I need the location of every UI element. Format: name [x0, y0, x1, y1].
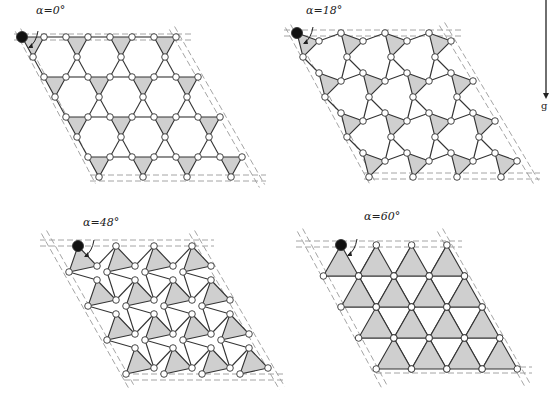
vertex — [151, 74, 158, 81]
vertex — [107, 114, 114, 121]
triangle-unit — [447, 276, 482, 307]
vertex — [432, 54, 439, 61]
triangle-unit — [385, 33, 407, 57]
vertex — [30, 54, 37, 61]
vertex — [162, 134, 169, 141]
triangle-unit — [164, 348, 192, 374]
vertex — [355, 335, 362, 342]
vertex — [360, 38, 367, 45]
vertex — [426, 335, 433, 342]
panel-label-alpha-18: α=18° — [306, 4, 342, 17]
vertex — [382, 110, 389, 117]
vertex — [85, 74, 92, 81]
vertex — [199, 303, 206, 310]
vertex — [444, 304, 451, 311]
vertex — [498, 174, 505, 181]
triangle-unit — [385, 113, 407, 137]
vertex — [373, 366, 380, 373]
vertex — [85, 303, 92, 310]
lattice-panels — [14, 22, 540, 389]
triangle-unit — [202, 348, 230, 374]
rotation-arrow-icon — [85, 240, 94, 256]
vertex — [479, 304, 486, 311]
triangle-unit — [145, 246, 173, 272]
vertex — [170, 277, 177, 284]
vertex — [470, 78, 477, 85]
vertex — [94, 277, 101, 284]
vertex — [96, 174, 103, 181]
vertex — [320, 273, 327, 280]
vertex — [461, 273, 468, 280]
vertex — [66, 269, 73, 276]
vertex — [408, 366, 415, 373]
triangle-unit — [429, 33, 451, 57]
triangle-unit — [473, 113, 495, 137]
lattice-panel-alpha-18 — [284, 22, 540, 183]
triangle-unit — [69, 246, 97, 272]
vertex — [180, 269, 187, 276]
vertex — [208, 345, 215, 352]
vertex — [344, 54, 351, 61]
vertex — [382, 158, 389, 165]
panel-label-alpha-0: α=0° — [36, 4, 65, 17]
lattice-panel-alpha-60 — [296, 229, 532, 388]
panel-label-alpha-60: α=60° — [364, 210, 400, 223]
vertex — [448, 150, 455, 157]
vertex — [404, 70, 411, 77]
vertex — [208, 277, 215, 284]
vertex — [206, 134, 213, 141]
vertex — [161, 371, 168, 378]
vertex — [195, 114, 202, 121]
vertex — [104, 337, 111, 344]
triangle-unit — [465, 307, 500, 338]
vertex — [344, 134, 351, 141]
vertex — [184, 94, 191, 101]
vertex — [470, 158, 477, 165]
vertex — [338, 110, 345, 117]
vertex — [132, 277, 139, 284]
triangle-unit — [341, 33, 363, 57]
vertex — [132, 345, 139, 352]
vertex — [373, 242, 380, 249]
vertex — [173, 154, 180, 161]
triangle-unit — [482, 338, 517, 369]
vertex — [227, 365, 234, 372]
vertex — [338, 30, 345, 37]
triangle-unit — [376, 276, 411, 307]
vertex — [189, 243, 196, 250]
kagome-figure — [0, 0, 549, 403]
vertex — [404, 38, 411, 45]
vertex — [195, 74, 202, 81]
vertex — [404, 150, 411, 157]
vertex — [448, 70, 455, 77]
triangle-unit — [363, 73, 385, 97]
vertex — [426, 273, 433, 280]
triangle-unit — [126, 348, 154, 374]
vertex — [454, 94, 461, 101]
vertex — [129, 34, 136, 41]
triangle-unit — [407, 73, 429, 97]
vertex — [514, 158, 521, 165]
vertex — [218, 337, 225, 344]
vertex — [391, 335, 398, 342]
vertex — [107, 154, 114, 161]
pinned-vertex — [73, 241, 84, 252]
panel-label-alpha-48: α=48° — [83, 216, 119, 229]
triangle-unit — [202, 280, 230, 306]
triangle-unit — [429, 307, 464, 338]
vertex — [189, 311, 196, 318]
triangle-unit — [126, 280, 154, 306]
vertex — [63, 34, 70, 41]
triangle-unit — [107, 246, 135, 272]
triangle-unit — [359, 307, 394, 338]
vertex — [85, 114, 92, 121]
vertex — [129, 154, 136, 161]
triangle-unit — [447, 338, 482, 369]
triangle-unit — [412, 338, 447, 369]
triangle-unit — [394, 245, 429, 276]
vertex — [170, 345, 177, 352]
vertex — [151, 154, 158, 161]
vertex — [338, 304, 345, 311]
vertex — [151, 311, 158, 318]
vertex — [410, 94, 417, 101]
